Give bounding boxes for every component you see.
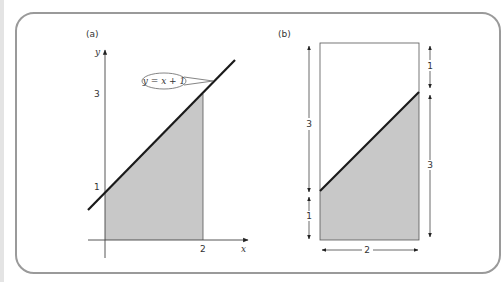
left-upper-dim: 3 bbox=[306, 119, 312, 129]
panel-a-label: (a) bbox=[86, 29, 99, 39]
left-lower-dim: 1 bbox=[306, 211, 312, 221]
y-tick-1: 1 bbox=[94, 182, 100, 192]
figure-canvas: (a) y 3 1 2 x y = x + 1 (b) 3 1 bbox=[0, 0, 502, 282]
right-upper-dim: 1 bbox=[427, 61, 433, 71]
shaded-area-b bbox=[320, 92, 419, 240]
panel-a: (a) y 3 1 2 x y = x + 1 bbox=[86, 29, 248, 258]
panel-b-label: (b) bbox=[278, 29, 291, 39]
panel-b: (b) 3 1 1 3 2 bbox=[278, 29, 433, 255]
right-lower-dim: 3 bbox=[427, 160, 433, 170]
callout-pointer bbox=[184, 77, 213, 85]
y-axis-label: y bbox=[94, 47, 101, 57]
shaded-area-a bbox=[105, 94, 203, 240]
x-axis-label: x bbox=[241, 244, 246, 254]
x-tick-2: 2 bbox=[200, 244, 206, 254]
callout-text: y = x + 1 bbox=[142, 76, 185, 86]
y-tick-3: 3 bbox=[94, 89, 100, 99]
bottom-dim: 2 bbox=[364, 245, 370, 255]
figure-frame bbox=[16, 13, 500, 273]
